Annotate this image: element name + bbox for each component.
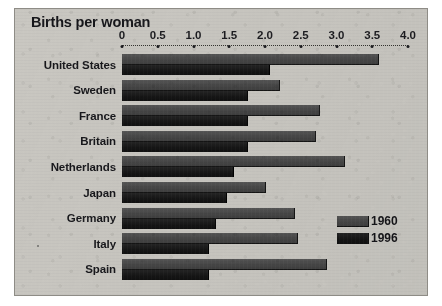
- bar-1960: [122, 105, 320, 116]
- x-axis-line: [122, 45, 408, 49]
- bar-row: United States: [15, 53, 427, 76]
- bar-1960: [122, 259, 327, 270]
- chart-legend: 19601996: [337, 214, 423, 248]
- chart-page: Births per woman 00.51.01.52.02.53.03.54…: [0, 0, 442, 306]
- bar-row: Britain: [15, 130, 427, 153]
- bar-1996: [122, 142, 248, 152]
- x-axis-tick-dot: [228, 45, 231, 48]
- x-axis-tick-dot: [192, 45, 195, 48]
- x-axis-tick-label: 2.5: [293, 29, 309, 41]
- x-axis-tick-label: 0: [119, 29, 125, 41]
- chart-panel: Births per woman 00.51.01.52.02.53.03.54…: [14, 8, 428, 296]
- bar-1960: [122, 233, 298, 244]
- bar-1960: [122, 54, 379, 65]
- bar-row: Japan: [15, 181, 427, 204]
- x-axis-tick-label: 1.5: [221, 29, 237, 41]
- category-label: France: [15, 110, 116, 122]
- x-axis-tick-label: 3.5: [364, 29, 380, 41]
- bar-1960: [122, 80, 280, 91]
- bar-1996: [122, 91, 248, 101]
- bar-1996: [122, 244, 209, 254]
- legend-label: 1960: [371, 214, 398, 228]
- bar-1960: [122, 208, 295, 219]
- x-axis-tick-label: 0.5: [150, 29, 166, 41]
- bar-1996: [122, 65, 270, 75]
- bar-1960: [122, 182, 266, 193]
- legend-entry: 1960: [337, 214, 423, 228]
- x-axis-tick-dot: [299, 45, 302, 48]
- bar-1996: [122, 167, 234, 177]
- category-label: Japan: [15, 187, 116, 199]
- x-axis-tick-dot: [371, 45, 374, 48]
- bar-row: France: [15, 104, 427, 127]
- category-label: United States: [15, 59, 116, 71]
- bar-row: Spain: [15, 258, 427, 281]
- category-label: Germany: [15, 212, 116, 224]
- category-label: Britain: [15, 135, 116, 147]
- x-axis-tick-dot: [121, 45, 124, 48]
- scan-speck: [37, 245, 39, 247]
- x-axis-tick-dot: [264, 45, 267, 48]
- x-axis-tick-label: 1.0: [186, 29, 202, 41]
- bar-1996: [122, 116, 248, 126]
- x-axis-tick-label: 4.0: [400, 29, 416, 41]
- x-axis-tick-labels: 00.51.01.52.02.53.03.54.0: [15, 29, 427, 43]
- x-axis-tick-dot: [335, 45, 338, 48]
- bar-1996: [122, 219, 216, 229]
- bar-1996: [122, 270, 209, 280]
- bar-row: Netherlands: [15, 155, 427, 178]
- x-axis-tick-label: 3.0: [329, 29, 345, 41]
- category-label: Sweden: [15, 84, 116, 96]
- category-label: Spain: [15, 263, 116, 275]
- x-axis-tick-label: 2.0: [257, 29, 273, 41]
- bar-1960: [122, 156, 345, 167]
- plot-area: 00.51.01.52.02.53.03.54.0 United StatesS…: [15, 9, 427, 295]
- legend-swatch: [337, 233, 369, 244]
- category-label: Netherlands: [15, 161, 116, 173]
- bar-row: Sweden: [15, 79, 427, 102]
- x-axis-tick-dot: [407, 45, 410, 48]
- legend-swatch: [337, 216, 369, 227]
- bar-1960: [122, 131, 316, 142]
- legend-entry: 1996: [337, 231, 423, 245]
- legend-label: 1996: [371, 231, 398, 245]
- x-axis-tick-dot: [156, 45, 159, 48]
- category-label: Italy: [15, 238, 116, 250]
- bar-1996: [122, 193, 227, 203]
